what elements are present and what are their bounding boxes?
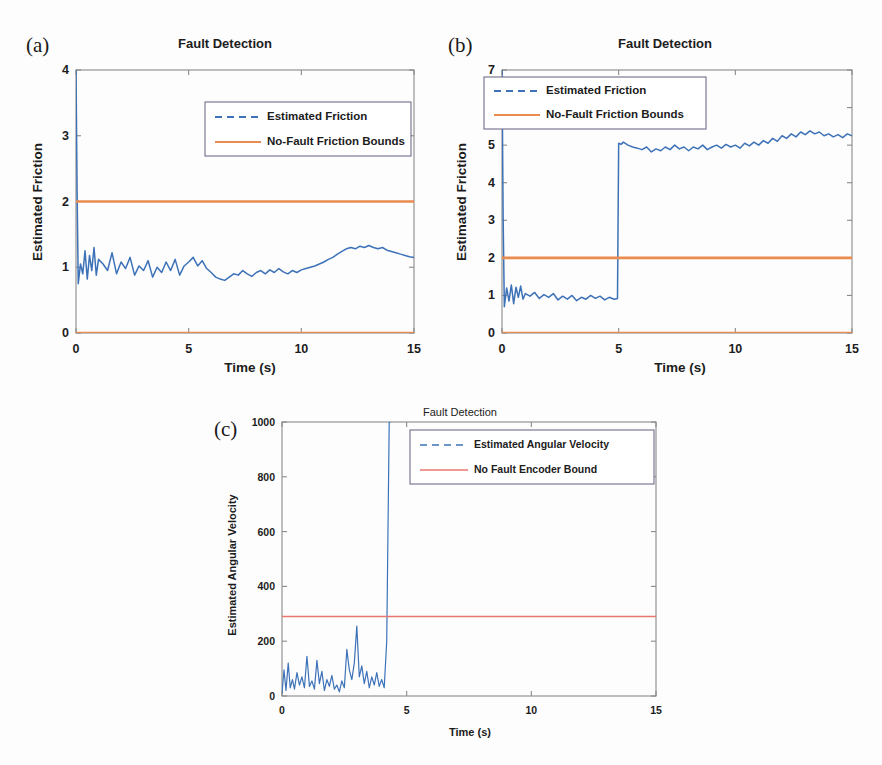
y-tick-label-b: 4 bbox=[488, 176, 495, 190]
x-tick-label-c: 0 bbox=[279, 704, 285, 716]
x-axis-title-c: Time (s) bbox=[449, 726, 491, 738]
y-tick-label-b: 3 bbox=[488, 213, 495, 227]
y-tick-label-b: 1 bbox=[488, 288, 495, 302]
x-tick-label-a: 15 bbox=[407, 342, 421, 356]
legend-label-b-1: No-Fault Friction Bounds bbox=[546, 108, 684, 120]
panel-letter-a: (a) bbox=[26, 33, 49, 57]
legend-label-a-0: Estimated Friction bbox=[267, 110, 367, 122]
chart-title-a: Fault Detection bbox=[178, 36, 272, 51]
x-axis-title-a: Time (s) bbox=[224, 360, 276, 375]
y-axis-title-c: Estimated Angular Velocity bbox=[226, 493, 238, 635]
legend-c[interactable]: Estimated Angular VelocityNo Fault Encod… bbox=[410, 430, 654, 484]
chart-panel-a: (a) Fault Detection 05101501234 Estimate… bbox=[20, 22, 430, 402]
y-tick-label-c: 800 bbox=[257, 471, 275, 483]
x-tick-label-b: 5 bbox=[615, 342, 622, 356]
y-axis-title-b: Estimated Friction bbox=[454, 143, 469, 261]
legend-b[interactable]: Estimated FrictionNo-Fault Friction Boun… bbox=[484, 77, 706, 129]
y-tick-label-c: 0 bbox=[269, 690, 275, 702]
legend-label-a-1: No-Fault Friction Bounds bbox=[267, 135, 405, 147]
y-tick-label-b: 2 bbox=[488, 251, 495, 265]
panel-letter-b: (b) bbox=[448, 33, 473, 57]
chart-title-c: Fault Detection bbox=[423, 406, 497, 418]
legend-label-c-1: No Fault Encoder Bound bbox=[474, 463, 597, 475]
y-tick-label-a: 1 bbox=[62, 260, 69, 274]
chart-panel-b: (b) Fault Detection 05101501234567 Estim… bbox=[440, 22, 870, 402]
x-tick-label-c: 5 bbox=[404, 704, 410, 716]
panel-letter-c: (c) bbox=[214, 417, 237, 441]
y-tick-label-b: 7 bbox=[488, 63, 495, 77]
legend-label-c-0: Estimated Angular Velocity bbox=[474, 438, 609, 450]
x-tick-label-b: 10 bbox=[728, 342, 742, 356]
y-tick-label-a: 3 bbox=[62, 129, 69, 143]
y-axis-title-a: Estimated Friction bbox=[30, 143, 45, 261]
y-tick-label-c: 200 bbox=[257, 635, 275, 647]
y-tick-label-a: 2 bbox=[62, 195, 69, 209]
x-tick-label-a: 0 bbox=[73, 342, 80, 356]
y-tick-label-b: 0 bbox=[488, 326, 495, 340]
x-tick-label-a: 10 bbox=[294, 342, 308, 356]
chart-title-b: Fault Detection bbox=[618, 36, 712, 51]
chart-svg-a: (a) Fault Detection 05101501234 Estimate… bbox=[20, 22, 430, 402]
x-axis-title-b: Time (s) bbox=[654, 360, 706, 375]
x-tick-label-c: 15 bbox=[650, 704, 662, 716]
x-tick-label-b: 15 bbox=[845, 342, 859, 356]
legend-a[interactable]: Estimated FrictionNo-Fault Friction Boun… bbox=[205, 102, 411, 156]
trace-c bbox=[282, 422, 390, 693]
y-tick-label-c: 600 bbox=[257, 526, 275, 538]
y-tick-label-a: 4 bbox=[62, 63, 69, 77]
y-tick-label-c: 400 bbox=[257, 580, 275, 592]
x-tick-label-b: 0 bbox=[499, 342, 506, 356]
chart-panel-c: (c) Fault Detection 05101502004006008001… bbox=[210, 400, 680, 760]
x-tick-label-c: 10 bbox=[525, 704, 537, 716]
x-tick-label-a: 5 bbox=[185, 342, 192, 356]
y-tick-label-b: 5 bbox=[488, 138, 495, 152]
legend-label-b-0: Estimated Friction bbox=[546, 84, 646, 96]
chart-svg-c: (c) Fault Detection 05101502004006008001… bbox=[210, 400, 680, 760]
figure-fault-detection: (a) Fault Detection 05101501234 Estimate… bbox=[0, 0, 882, 765]
chart-svg-b: (b) Fault Detection 05101501234567 Estim… bbox=[440, 22, 870, 402]
y-tick-label-a: 0 bbox=[62, 326, 69, 340]
y-tick-label-c: 1000 bbox=[252, 416, 276, 428]
